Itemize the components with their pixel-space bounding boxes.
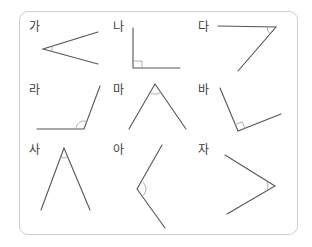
angle-ga: [43, 32, 98, 64]
angle-ma: [129, 84, 186, 129]
angle-sa: [41, 148, 90, 210]
angle-ba: [220, 88, 281, 131]
angle-na: [133, 28, 180, 68]
angle-da: [218, 26, 276, 71]
angles-canvas: [0, 0, 312, 247]
angle-ja: [225, 155, 275, 214]
angle-a: [137, 145, 165, 228]
angle-ra: [37, 86, 100, 129]
